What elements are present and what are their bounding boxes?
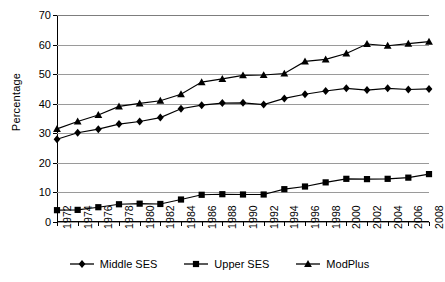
data-point	[384, 84, 391, 92]
legend-marker-square	[183, 258, 209, 270]
legend-marker-triangle	[295, 258, 321, 270]
data-point	[363, 40, 371, 47]
legend-marker-diamond	[69, 258, 95, 270]
data-point	[95, 125, 102, 133]
data-point	[199, 192, 205, 198]
data-point	[54, 135, 61, 143]
x-tick-mark	[264, 222, 265, 226]
data-point	[385, 176, 391, 182]
data-point	[95, 204, 101, 210]
y-axis-title: Percentage	[10, 42, 22, 162]
x-tick-mark	[346, 222, 347, 226]
data-point	[343, 176, 349, 182]
x-tick-mark	[140, 222, 141, 226]
y-tick-label: 70	[39, 9, 51, 21]
data-point	[280, 70, 288, 77]
y-tick-label: 50	[39, 68, 51, 80]
data-point	[75, 207, 81, 213]
x-tick-mark	[243, 222, 244, 226]
data-point	[260, 101, 267, 109]
x-tick-mark	[57, 222, 58, 226]
data-point	[426, 85, 433, 93]
data-point	[219, 99, 226, 107]
data-point	[364, 176, 370, 182]
data-point	[261, 191, 267, 197]
x-tick-mark	[326, 222, 327, 226]
data-point	[364, 86, 371, 94]
data-point	[219, 191, 225, 197]
data-point	[302, 183, 308, 189]
data-point	[342, 50, 350, 57]
x-tick-mark	[388, 222, 389, 226]
data-point	[302, 90, 309, 98]
data-point	[322, 87, 329, 95]
y-tick-label: 0	[45, 216, 51, 228]
x-tick-mark	[202, 222, 203, 226]
data-point	[405, 175, 411, 181]
data-point	[177, 90, 185, 97]
y-tick-label: 30	[39, 127, 51, 139]
legend-item-upper-ses[interactable]: Upper SES	[183, 258, 269, 270]
y-tick-label: 10	[39, 186, 51, 198]
data-point	[323, 179, 329, 185]
series-layer	[57, 15, 429, 222]
series-line-0	[57, 88, 429, 139]
data-point	[343, 84, 350, 92]
x-tick-mark	[160, 222, 161, 226]
x-tick-mark	[367, 222, 368, 226]
data-point	[116, 120, 123, 128]
data-point	[54, 207, 60, 213]
legend-label: ModPlus	[326, 259, 369, 270]
data-point	[178, 105, 185, 113]
x-tick-mark	[119, 222, 120, 226]
data-point	[136, 117, 143, 125]
y-tick-label: 40	[39, 98, 51, 110]
legend-label: Middle SES	[100, 259, 157, 270]
data-point	[425, 38, 433, 45]
data-point	[281, 186, 287, 192]
x-tick-label: 2008	[433, 205, 445, 229]
data-point	[74, 129, 81, 137]
data-point	[240, 191, 246, 197]
legend-item-middle-ses[interactable]: Middle SES	[69, 258, 157, 270]
series-line-2	[57, 42, 429, 129]
legend-label: Upper SES	[214, 259, 269, 270]
x-tick-mark	[98, 222, 99, 226]
x-tick-mark	[408, 222, 409, 226]
data-point	[178, 196, 184, 202]
data-point	[281, 94, 288, 102]
plot-area: 010203040506070 197219741976197819801982…	[57, 15, 429, 222]
x-tick-mark	[429, 222, 430, 226]
data-point	[157, 114, 164, 122]
legend-item-modplus[interactable]: ModPlus	[295, 258, 369, 270]
x-tick-mark	[305, 222, 306, 226]
data-point	[198, 101, 205, 109]
x-tick-mark	[181, 222, 182, 226]
data-point	[157, 201, 163, 207]
data-point	[426, 171, 432, 177]
x-tick-mark	[284, 222, 285, 226]
data-point	[94, 111, 102, 118]
y-tick-label: 20	[39, 157, 51, 169]
x-tick-mark	[222, 222, 223, 226]
data-point	[116, 201, 122, 207]
x-tick-mark	[78, 222, 79, 226]
chart-legend: Middle SES Upper SES ModPlus	[0, 258, 438, 270]
data-point	[240, 99, 247, 107]
data-point	[137, 201, 143, 207]
y-tick-label: 60	[39, 39, 51, 51]
data-point	[405, 86, 412, 94]
